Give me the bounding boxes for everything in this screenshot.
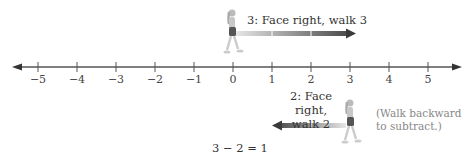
subtract-note: (Walk backward to subtract.)	[376, 107, 462, 133]
step2-label-line1: 2: Face right,	[272, 89, 350, 117]
tick-label: −4	[69, 73, 85, 86]
tick-label: 5	[425, 73, 432, 86]
step2-label: 2: Face right, walk 2	[272, 89, 350, 131]
note-line1: (Walk backward	[376, 107, 462, 120]
tick-label: 0	[230, 73, 237, 86]
step2-label-line2: walk 2	[272, 117, 350, 131]
tick-label: −5	[30, 73, 46, 86]
tick-label: 1	[269, 73, 276, 86]
axis-left-arrow-icon	[12, 64, 22, 71]
tick-label: 2	[308, 73, 315, 86]
equation: 3 − 2 = 1	[212, 141, 268, 155]
walk-forward-arrow	[236, 29, 356, 39]
axis-right-arrow-icon	[452, 64, 462, 71]
tick-label: −1	[186, 73, 202, 86]
step1-label: 3: Face right, walk 3	[247, 13, 367, 27]
tick-label: −3	[108, 73, 124, 86]
tick-label: −2	[147, 73, 163, 86]
note-line2: to subtract.)	[376, 120, 462, 133]
tick-label: 4	[386, 73, 393, 86]
tick-label: 3	[347, 73, 354, 86]
